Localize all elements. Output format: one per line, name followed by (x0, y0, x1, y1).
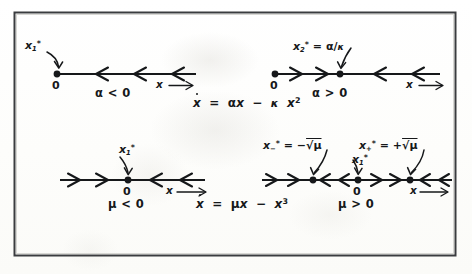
pointer-curve-xminus (315, 150, 328, 173)
phase-line-artwork: .axline { stroke: #16181a; stroke-width:… (0, 0, 472, 274)
figure-canvas: .axline { stroke: #16181a; stroke-width:… (0, 0, 472, 274)
fixed-point-dot-xminus-stable (310, 177, 317, 184)
fixed-point-dot-x1-stable (54, 71, 61, 78)
fixed-point-dot-origin-unstable (272, 71, 279, 78)
pointer-curve-x1 (120, 157, 128, 173)
fixed-point-dot-xplus-stable (407, 177, 414, 184)
fixed-point-dot-x1-stable (125, 177, 132, 184)
pointer-curve-x2 (342, 48, 352, 67)
panel-pitchfork-negative-art (60, 157, 206, 196)
panel-transcritical-positive-art (272, 48, 443, 90)
x-direction-arrow (169, 82, 193, 90)
x-direction-arrow (419, 82, 443, 90)
pointer-curve-xplus (412, 150, 425, 173)
x-direction-arrow (420, 188, 448, 196)
x-direction-arrow (177, 188, 206, 196)
fixed-point-dot-x2-stable (337, 71, 344, 78)
fixed-point-dot-origin-unstable (355, 177, 362, 184)
panel-transcritical-negative-art (47, 52, 196, 90)
panel-pitchfork-positive-art (262, 150, 452, 196)
